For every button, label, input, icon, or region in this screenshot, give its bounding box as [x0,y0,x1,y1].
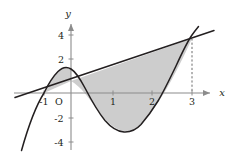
shaded-area-group [44,39,192,132]
y-axis-label: y [64,8,71,19]
figure-container: y x O -1 1 2 3 4 2 -2 -4 [0,0,236,161]
shaded-region-main [71,39,192,132]
y-tick-label-neg2: -2 [54,113,63,124]
x-tick-label-3: 3 [189,96,195,107]
origin-label: O [55,96,63,107]
x-tick-label-2: 2 [149,96,155,107]
x-axis-label: x [219,87,225,98]
x-tick-label-1: 1 [110,96,116,107]
y-tick-label-2: 2 [58,54,64,65]
y-tick-label-neg4: -4 [54,137,63,148]
y-tick-label-4: 4 [58,30,64,41]
y-axis-arrow [68,24,74,31]
x-tick-label-neg1: -1 [39,96,48,107]
x-axis-arrow [203,90,210,96]
plot-canvas: y x O -1 1 2 3 4 2 -2 -4 [0,0,236,161]
